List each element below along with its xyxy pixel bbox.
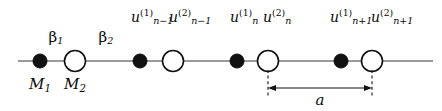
displacement-label-u-n-minus-1-sublattice-2: u(2)n−1 [169, 8, 211, 26]
atom-filled-m1 [334, 54, 348, 68]
diatomic-chain-figure: β1 β2 M1 M2 u(1)n−1 u(2)n−1 u(1)n u(2)n … [0, 0, 442, 111]
atom-filled-m1 [230, 54, 244, 68]
dimension-arrowhead-right [364, 85, 372, 91]
displacement-label-u-n-sublattice-1: u(1)n [230, 8, 258, 26]
spring-constant-beta-2: β2 [99, 30, 114, 46]
displacement-label-u-n-sublattice-2: u(2)n [263, 8, 291, 26]
atom-open-m2 [163, 51, 184, 72]
lattice-constant-label: a [316, 93, 325, 108]
mass-label-m1: M1 [29, 77, 51, 94]
spring-constant-beta-1: β1 [49, 30, 64, 46]
atom-open-m2 [65, 51, 86, 72]
atom-open-m2 [362, 51, 383, 72]
displacement-label-u-n-minus-1-sublattice-1: u(1)n−1 [131, 8, 173, 26]
dimension-arrowhead-left [268, 85, 276, 91]
atom-filled-m1 [33, 54, 47, 68]
atom-open-m2 [258, 51, 279, 72]
atom-filled-m1 [133, 54, 147, 68]
displacement-label-u-n-plus-1-sublattice-2: u(2)n+1 [371, 8, 413, 26]
displacement-label-u-n-plus-1-sublattice-1: u(1)n+1 [330, 8, 372, 26]
mass-label-m2: M2 [64, 77, 86, 94]
